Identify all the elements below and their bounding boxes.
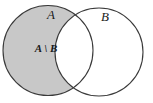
region-label-a-minus-b: A \ B	[34, 42, 58, 54]
set-label-a: A	[46, 7, 55, 22]
set-label-b: B	[101, 9, 109, 24]
venn-diagram-canvas: A B A \ B	[0, 0, 153, 103]
venn-diagram-figure: A B A \ B	[0, 0, 153, 103]
